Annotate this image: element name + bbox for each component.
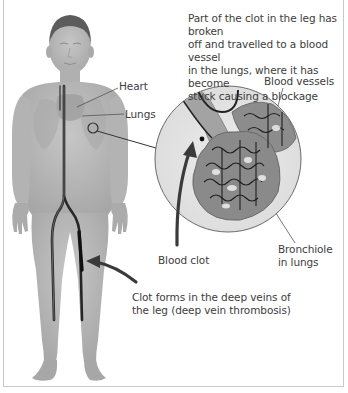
lungs-label: Lungs	[125, 108, 156, 121]
embolism-caption: Part of the clot in the leg has broken o…	[188, 12, 348, 103]
heart-label: Heart	[119, 80, 148, 93]
bronchiole-label-line: Bronchiole	[278, 243, 333, 256]
legs	[32, 213, 109, 362]
left-foot	[84, 360, 106, 381]
blood-clot-label: Blood clot	[158, 254, 209, 267]
bronchiole-label: Bronchiole in lungs	[278, 243, 333, 269]
human-body	[12, 15, 128, 381]
embolism-caption-line: Part of the clot in the leg has broken	[188, 12, 348, 38]
right-hand	[12, 203, 29, 234]
dvt-caption-line: Clot forms in the deep veins of	[132, 291, 291, 304]
lodged-clot	[200, 137, 205, 142]
dvt-caption: Clot forms in the deep veins of the leg …	[132, 291, 291, 317]
bronchiole-label-line: in lungs	[278, 256, 333, 269]
embolism-caption-line: stuck causing a blockage	[188, 90, 348, 103]
embolism-caption-line: off and travelled to a blood vessel	[188, 38, 348, 64]
right-arm	[12, 95, 31, 205]
right-foot	[32, 360, 57, 381]
blood-vessels-label: Blood vessels	[264, 75, 334, 88]
dvt-caption-line: the leg (deep vein thrombosis)	[132, 304, 291, 317]
left-hand	[111, 203, 128, 234]
